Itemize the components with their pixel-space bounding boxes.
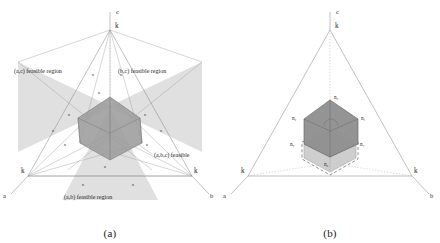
axis-a-line: [231, 176, 248, 194]
point-label: n: [146, 142, 148, 147]
panel-a-diagram: n n n n n n n n n n n n c k k k a b (a,c…: [0, 0, 220, 215]
axis-label-b: b: [210, 192, 214, 199]
vertex-label-apex-k: k: [115, 22, 119, 30]
point-label: n: [68, 112, 70, 117]
region-label-bc: (b,c) feasible region: [118, 68, 166, 75]
point-label: n: [144, 112, 146, 117]
point-label: n: [92, 72, 94, 77]
vertex-label-left-k: k: [21, 167, 25, 175]
region-label-abc: (a,b,c) feasible: [154, 152, 190, 159]
axis-label-a: a: [3, 192, 6, 199]
normal-label-n2: n₂: [292, 115, 297, 121]
axis-a-line: [11, 176, 28, 194]
vertex-label-right-k: k: [414, 167, 418, 175]
normal-label-n6: n₆: [324, 161, 329, 167]
figure-root: n n n n n n n n n n n n c k k k a b (a,c…: [0, 0, 440, 243]
point-label: n: [64, 142, 66, 147]
panel-b-diagram: n₃ n₁ n₂ n₄ n₅ n₆ c k k k a b: [220, 0, 440, 215]
axis-label-a: a: [223, 192, 226, 199]
vertex-label-right-k: k: [194, 167, 198, 175]
axis-label-b: b: [430, 192, 434, 199]
panel-a: n n n n n n n n n n n n c k k k a b (a,c…: [0, 0, 220, 243]
point-label: n: [104, 164, 106, 169]
vertex-label-apex-k: k: [335, 22, 339, 30]
vertex-label-left-k: k: [241, 167, 245, 175]
point-label: n: [82, 182, 84, 187]
normal-label-n5: n₅: [290, 141, 295, 147]
region-label-ac: (a,c) feasible region: [14, 68, 62, 75]
point-label: n: [98, 90, 100, 95]
point-label: n: [160, 128, 162, 133]
panel-a-caption: (a): [0, 227, 220, 239]
axis-b-line: [192, 176, 209, 194]
axis-label-c: c: [336, 8, 339, 15]
point-label: n: [52, 128, 54, 133]
normal-label-n4: n₄: [360, 141, 365, 147]
axis-b-line: [412, 176, 429, 194]
point-label: n: [132, 182, 134, 187]
normal-label-n1: n₁: [361, 115, 366, 121]
panel-b-caption: (b): [220, 227, 440, 239]
panel-b: n₃ n₁ n₂ n₄ n₅ n₆ c k k k a b (b): [220, 0, 440, 243]
normal-label-n3: n₃: [334, 94, 339, 100]
axis-label-c: c: [116, 8, 119, 15]
region-label-ab: (a,b) feasible region: [64, 194, 112, 201]
